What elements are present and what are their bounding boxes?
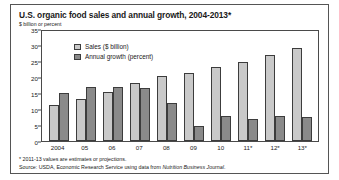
bar-growth: [275, 116, 285, 141]
bar-growth: [194, 126, 204, 141]
bar-group: [49, 31, 69, 141]
bar-sales: [238, 62, 248, 141]
bar-group: [238, 31, 258, 141]
x-axis-tick-label: 11*: [237, 144, 259, 154]
bar-growth: [113, 87, 123, 141]
bar-growth: [86, 87, 96, 141]
source-publication: Nutrition Business Journal: [162, 164, 224, 170]
x-axis-tick-label: 06: [101, 144, 123, 154]
x-axis-tick-label: 13*: [291, 144, 313, 154]
x-axis-tick-label: 2004: [47, 144, 69, 154]
legend-item: Sales ($ billion): [74, 43, 153, 50]
x-axis-tick-label: 09: [183, 144, 205, 154]
bar-sales: [184, 73, 194, 141]
bar-growth: [302, 117, 312, 141]
x-axis-tick-label: 05: [74, 144, 96, 154]
source-line: Source: USDA, Economic Research Service …: [19, 164, 225, 170]
bar-group: [292, 31, 312, 141]
bar-growth: [59, 93, 69, 141]
legend-label: Annual growth (percent): [85, 53, 153, 60]
chart-notes: * 2011-13 values are estimates or projec…: [19, 156, 225, 172]
x-axis-tick-label: 07: [128, 144, 150, 154]
legend-swatch-growth: [74, 54, 81, 60]
footnote: * 2011-13 values are estimates or projec…: [19, 156, 225, 162]
y-axis-tick-label: 20: [31, 75, 38, 82]
bar-sales: [157, 76, 167, 141]
bar-growth: [140, 88, 150, 141]
bar-sales: [265, 55, 275, 141]
y-axis-unit-label: $ billion or percent: [19, 21, 61, 27]
source-prefix: Source: USDA, Economic Research Service …: [19, 164, 162, 170]
bar-growth: [221, 116, 231, 141]
y-axis-tick-label: 35: [31, 27, 38, 34]
y-axis-tick-label: 15: [31, 91, 38, 98]
bar-growth: [248, 119, 258, 141]
legend-swatch-sales: [74, 44, 81, 50]
bar-sales: [103, 92, 113, 141]
bar-sales: [76, 99, 86, 141]
x-axis: 200405060708091011*12*13*: [41, 144, 319, 154]
y-axis-tick-label: 25: [31, 59, 38, 66]
legend-item: Annual growth (percent): [74, 53, 153, 60]
bar-sales: [130, 83, 140, 141]
bar-sales: [211, 67, 221, 141]
bar-group: [184, 31, 204, 141]
y-axis-tick-label: 30: [31, 43, 38, 50]
source-suffix: .: [224, 164, 225, 170]
bar-group: [265, 31, 285, 141]
x-axis-tick-label: 10: [210, 144, 232, 154]
bar-sales: [292, 48, 302, 141]
legend-label: Sales ($ billion): [85, 43, 129, 50]
bar-sales: [49, 105, 59, 141]
bar-group: [157, 31, 177, 141]
x-axis-tick-label: 12*: [264, 144, 286, 154]
chart-figure: U.S. organic food sales and annual growt…: [10, 4, 329, 174]
chart-title: U.S. organic food sales and annual growt…: [19, 10, 231, 20]
chart-legend: Sales ($ billion)Annual growth (percent): [74, 43, 153, 63]
y-axis-tick-label: 10: [31, 107, 38, 114]
y-axis: 05101520253035: [11, 30, 41, 142]
x-axis-tick-label: 08: [155, 144, 177, 154]
bar-group: [211, 31, 231, 141]
bar-growth: [167, 103, 177, 141]
